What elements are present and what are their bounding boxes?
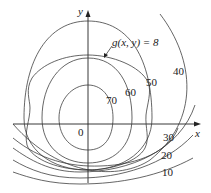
level-label-50: 50 (146, 76, 158, 88)
contour-70 (59, 85, 113, 150)
y-axis-label: y (77, 5, 83, 17)
x-axis-arrow-icon (194, 122, 201, 127)
contour-figure: y x 0 g(x, y) = 8 40 50 60 70 30 20 10 (0, 0, 211, 193)
origin-label: 0 (78, 126, 84, 138)
level-label-60: 60 (125, 86, 137, 98)
contour-60 (42, 58, 132, 163)
contour-40 (13, 14, 187, 172)
y-axis-arrow-icon (86, 10, 91, 17)
x-axis-label: x (194, 127, 200, 139)
level-label-70: 70 (106, 94, 118, 106)
constraint-label: g(x, y) = 8 (112, 36, 159, 49)
level-label-40: 40 (173, 65, 185, 77)
level-label-30: 30 (163, 131, 175, 143)
level-label-10: 10 (162, 166, 174, 178)
level-label-20: 20 (161, 149, 173, 161)
